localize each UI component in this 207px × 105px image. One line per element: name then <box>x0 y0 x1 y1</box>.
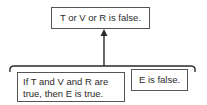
premise-box-negation: E is false. <box>131 69 188 91</box>
premise-text-line2: true, then E is true. <box>23 88 119 100</box>
argument-diagram: T or V or R is false. If T and V and R a… <box>0 0 207 105</box>
premise-box-conditional: If T and V and R are true, then E is tru… <box>17 72 125 102</box>
premise-text: E is false. <box>139 74 180 86</box>
conclusion-box: T or V or R is false. <box>51 7 150 29</box>
premise-text-line1: If T and V and R are <box>23 76 119 88</box>
conclusion-text: T or V or R is false. <box>60 12 141 24</box>
arrow-head-icon <box>101 29 108 36</box>
